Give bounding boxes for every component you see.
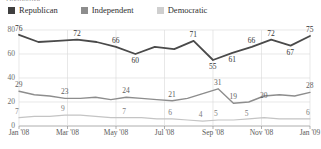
data-label-democratic: 4 [199, 111, 203, 119]
data-label-republican: 61 [228, 56, 236, 64]
data-label-republican: 60 [131, 57, 139, 65]
legend-label-democratic: Democratic [168, 6, 208, 15]
data-label-republican: 75 [306, 26, 314, 34]
data-label-democratic: 5 [214, 110, 218, 118]
x-axis-tick-label: Jul '08 [143, 129, 187, 137]
x-axis-tick-label: Mar '08 [46, 129, 90, 137]
data-label-independent: 28 [306, 82, 314, 90]
y-axis-tick-label: 20 [1, 98, 15, 106]
y-axis-tick-label: 80 [1, 26, 15, 34]
legend-item-democratic[interactable]: Democratic [157, 6, 208, 15]
data-label-republican: 76 [15, 25, 23, 33]
data-label-independent: 24 [122, 87, 130, 95]
data-label-independent: 31 [214, 79, 222, 87]
legend-label-republican: Republican [19, 6, 58, 15]
x-axis-tick-label: Jan '08 [0, 129, 41, 137]
legend-swatch-independent [81, 7, 88, 14]
line-chart: Disapprove Republican Independent Democr… [0, 0, 321, 149]
data-label-independent: 21 [168, 91, 176, 99]
chart-legend: Republican Independent Democratic [8, 6, 230, 15]
data-label-republican: 66 [112, 37, 120, 45]
data-label-republican: 72 [73, 30, 81, 38]
data-label-independent: 23 [61, 88, 69, 96]
data-label-independent: 20 [260, 92, 268, 100]
x-axis-tick-label: Nov '08 [240, 129, 284, 137]
x-axis-tick-label: Jan '09 [288, 129, 321, 137]
data-label-democratic: 6 [306, 109, 310, 117]
data-label-republican: 66 [248, 37, 256, 45]
data-label-republican: 71 [190, 31, 198, 39]
data-label-democratic: 7 [122, 108, 126, 116]
legend-item-independent[interactable]: Independent [81, 6, 134, 15]
x-axis-tick-label: May '08 [94, 129, 138, 137]
x-axis-tick-label: Sep '08 [191, 129, 235, 137]
x-axis-labels: Jan '08Mar '08May '08Jul '08Sep '08Nov '… [0, 129, 321, 141]
y-axis-tick-label: 60 [1, 50, 15, 58]
data-label-republican: 67 [287, 49, 295, 57]
data-label-democratic: 5 [245, 110, 249, 118]
data-label-republican: 72 [267, 30, 275, 38]
data-label-democratic: 7 [15, 108, 19, 116]
legend-swatch-republican [8, 7, 15, 14]
data-label-republican: 55 [209, 63, 217, 71]
y-axis-tick-label: 40 [1, 74, 15, 82]
legend-label-independent: Independent [92, 6, 134, 15]
data-label-democratic: 6 [168, 109, 172, 117]
data-label-independent: 29 [15, 81, 23, 89]
chart-title-clipped: Disapprove [6, 0, 40, 1]
legend-item-republican[interactable]: Republican [8, 6, 58, 15]
data-label-democratic: 9 [61, 105, 65, 113]
legend-swatch-democratic [157, 7, 164, 14]
data-label-independent: 19 [229, 93, 237, 101]
